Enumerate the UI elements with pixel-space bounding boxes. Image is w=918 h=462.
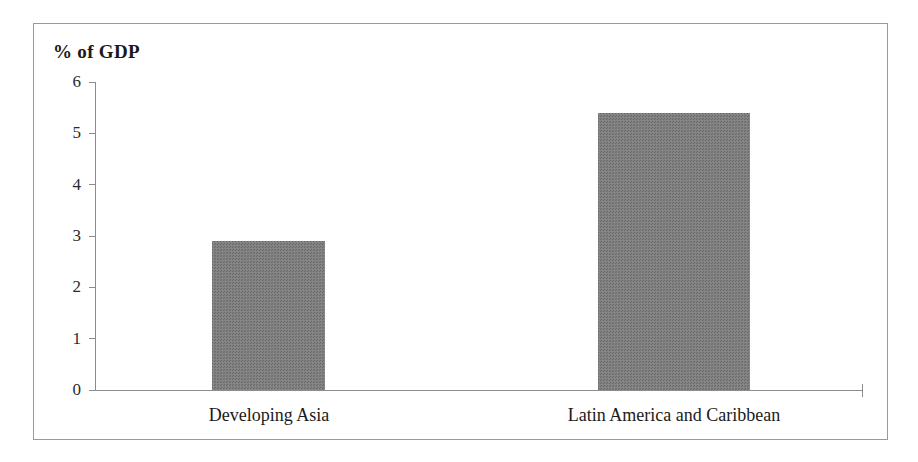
y-axis-tick-label: 1	[47, 330, 81, 347]
y-axis-tick-label: 4	[47, 176, 81, 193]
y-axis-tick-label: 0	[47, 381, 81, 398]
y-axis-tick	[89, 82, 96, 83]
y-axis-tick-label: 3	[47, 227, 81, 244]
bar-1	[212, 241, 325, 390]
bar-2	[598, 113, 750, 390]
x-axis-category-label: Developing Asia	[119, 405, 419, 425]
y-axis-tick	[89, 133, 96, 134]
y-axis-tick-label: 2	[47, 278, 81, 295]
y-axis-tick	[89, 390, 96, 391]
x-axis-end-tick	[862, 384, 863, 397]
plot-area: % of GDP 0123456 Developing AsiaLatin Am…	[0, 0, 918, 462]
x-axis-category-label: Latin America and Caribbean	[464, 405, 884, 425]
y-axis-tick	[89, 236, 96, 237]
y-axis-tick-label: 5	[47, 124, 81, 141]
y-axis-tick	[89, 184, 96, 185]
y-axis-tick	[89, 287, 96, 288]
y-axis-tick-label: 6	[47, 73, 81, 90]
y-axis-line	[95, 82, 96, 391]
chart-title: % of GDP	[53, 41, 140, 63]
figure-container: % of GDP 0123456 Developing AsiaLatin Am…	[0, 0, 918, 462]
x-axis-line	[95, 390, 863, 391]
y-axis-tick	[89, 338, 96, 339]
